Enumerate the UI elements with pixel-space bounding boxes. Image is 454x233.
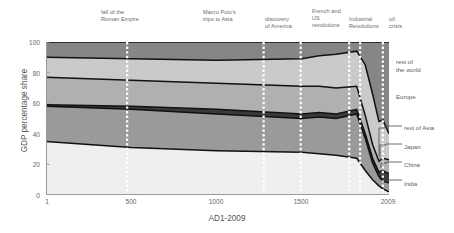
event-annotation-3: French and US revolutions [312,8,352,30]
legend-label-europe: Europe [396,93,416,101]
legend-label-rest-of-the-world: rest of the world [396,58,421,73]
x-tick-label: 1 [45,198,49,205]
y-tick-label: 40 [18,130,40,137]
y-tick-label: 100 [18,39,40,46]
event-annotation-2: discovery of America [265,16,311,30]
y-tick-label: 80 [18,69,40,76]
stacked-area-svg [46,42,389,195]
y-tick-label: 0 [18,192,40,199]
legend-label-rest-of-asia: rest of Asia [404,124,434,132]
legend-label-japan: Japan [404,143,421,151]
x-axis-title: AD1-2009 [0,214,454,223]
x-tick-label: 500 [125,198,136,205]
x-tick-label: 1500 [294,198,309,205]
event-annotation-5: oil crisis [389,16,409,30]
x-tick-label: 2009 [381,198,396,205]
event-annotation-1: Macro Polo's trips to Asia [203,9,259,23]
legend-label-india: India [404,180,417,188]
chart-container: fall of the Roman Empire Macro Polo's tr… [0,0,454,233]
event-annotation-0: fall of the Roman Empire [101,9,163,23]
event-annotation-4: Industrial Revolutions [349,16,391,30]
y-tick-label: 20 [18,161,40,168]
legend-leader-lines [378,118,404,198]
plot-area [46,42,389,195]
y-tick-label: 60 [18,100,40,107]
x-tick-label: 1000 [209,198,224,205]
legend-label-china: China [404,161,420,169]
